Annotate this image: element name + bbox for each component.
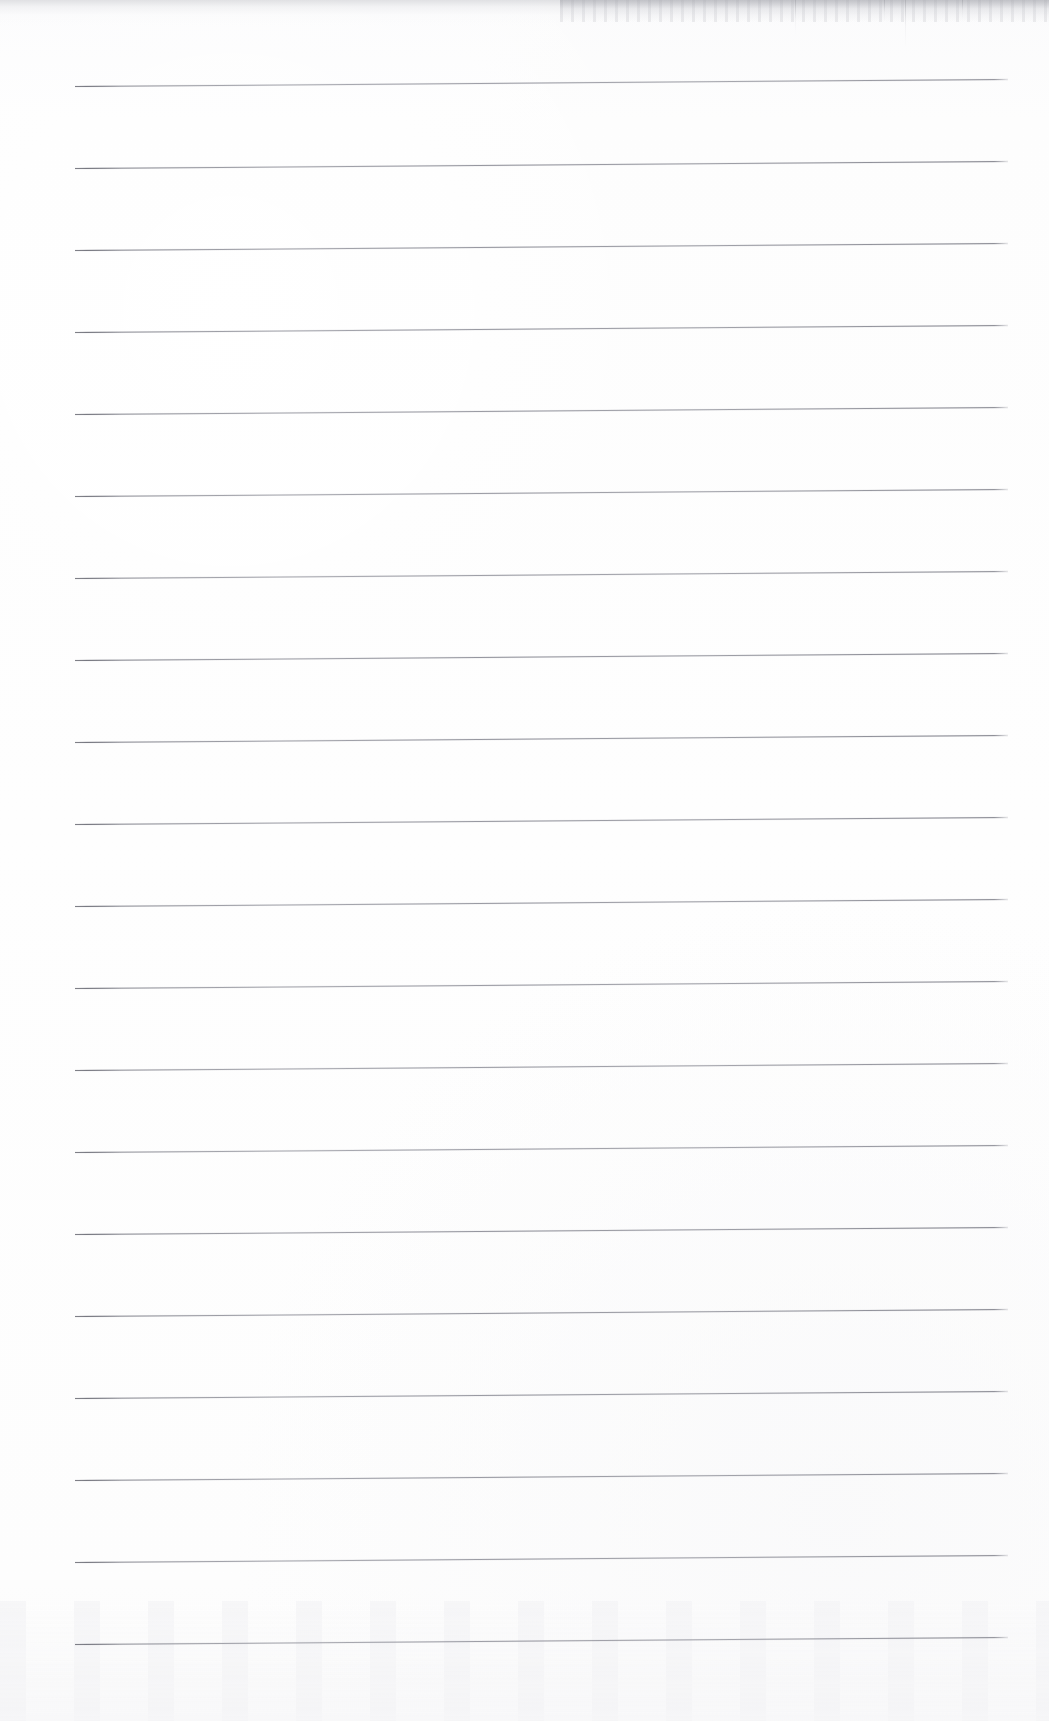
ruled-line-left-tip	[75, 1315, 121, 1317]
scan-streak	[884, 0, 885, 22]
ruled-line	[75, 488, 1008, 498]
ruled-line-left-tip	[75, 1561, 121, 1563]
ruled-line-left-tip	[75, 85, 121, 87]
ruled-line-left-tip	[75, 1151, 121, 1153]
ruled-line-left-tip	[75, 249, 121, 251]
ruled-line	[75, 652, 1008, 662]
ruled-line	[75, 1144, 1008, 1154]
scan-streak	[962, 0, 963, 19]
ruled-line-left-tip	[75, 1479, 121, 1481]
ruled-line	[75, 1226, 1008, 1236]
ruled-line	[75, 898, 1008, 908]
ruled-line	[75, 1636, 1008, 1646]
ruled-line	[75, 1308, 1008, 1318]
ruled-line-left-tip	[75, 659, 121, 661]
ruled-line-left-tip	[75, 1069, 121, 1071]
ruled-line-left-tip	[75, 905, 121, 907]
ruled-line	[75, 1472, 1008, 1482]
ruled-line	[75, 1390, 1008, 1400]
ruled-line	[75, 324, 1008, 334]
scan-streak	[795, 0, 796, 34]
ruled-line	[75, 816, 1008, 826]
ruled-line	[75, 980, 1008, 990]
ruled-line-left-tip	[75, 167, 121, 169]
ruled-line	[75, 734, 1008, 744]
ruled-line-left-tip	[75, 331, 121, 333]
scan-streak	[905, 0, 906, 48]
ruled-line-left-tip	[75, 823, 121, 825]
ruled-line-left-tip	[75, 495, 121, 497]
ruled-line	[75, 1554, 1008, 1564]
ruled-line	[75, 242, 1008, 252]
ruled-line	[75, 78, 1008, 88]
ruled-line-left-tip	[75, 987, 121, 989]
ruled-line-left-tip	[75, 1233, 121, 1235]
ruled-lines-layer	[0, 0, 1049, 1721]
ruled-line	[75, 160, 1008, 170]
ruled-line	[75, 570, 1008, 580]
ruled-line	[75, 1062, 1008, 1072]
top-edge-fringe-artifact	[0, 0, 1049, 26]
ruled-line-left-tip	[75, 741, 121, 743]
ruled-line	[75, 406, 1008, 416]
scanned-page	[0, 0, 1049, 1721]
ruled-line-left-tip	[75, 577, 121, 579]
ruled-line-left-tip	[75, 413, 121, 415]
ruled-line-left-tip	[75, 1643, 121, 1645]
ruled-line-left-tip	[75, 1397, 121, 1399]
